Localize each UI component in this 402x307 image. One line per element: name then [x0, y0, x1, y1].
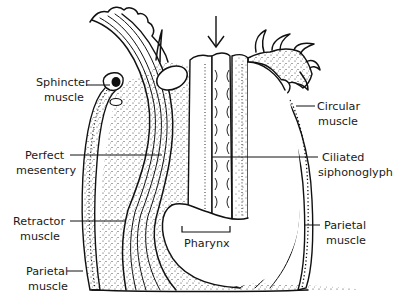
pedal-disc: [92, 290, 308, 292]
label-parietal-muscle-right: Parietal muscle: [324, 219, 366, 247]
svg-text:muscle: muscle: [20, 230, 60, 243]
svg-text:mesentery: mesentery: [16, 164, 76, 177]
svg-text:Parietal: Parietal: [324, 219, 366, 232]
label-pharynx: Pharynx: [184, 237, 230, 250]
pharynx: [188, 53, 248, 222]
svg-text:Perfect: Perfect: [25, 149, 65, 162]
anemone-section-diagram: Sphincter muscle Perfect mesentery Retra…: [0, 0, 402, 307]
label-circular-muscle: Circular muscle: [317, 100, 360, 128]
svg-text:Ciliated: Ciliated: [322, 151, 364, 164]
svg-text:Retractor: Retractor: [13, 215, 65, 228]
svg-text:muscle: muscle: [318, 115, 358, 128]
label-parietal-muscle-left: Parietal muscle: [26, 265, 68, 293]
label-retractor-muscle: Retractor muscle: [13, 215, 65, 243]
svg-text:muscle: muscle: [28, 280, 68, 293]
water-flow-arrow-icon: [208, 16, 224, 47]
label-ciliated-siphonoglyph: Ciliated siphonoglyph: [318, 151, 393, 179]
svg-text:Parietal: Parietal: [26, 265, 68, 278]
svg-text:Sphincter: Sphincter: [36, 76, 90, 89]
svg-text:muscle: muscle: [326, 234, 366, 247]
svg-text:siphonoglyph: siphonoglyph: [318, 166, 393, 179]
label-sphincter-muscle: Sphincter muscle: [36, 76, 90, 104]
label-perfect-mesentery: Perfect mesentery: [16, 149, 76, 177]
svg-text:muscle: muscle: [44, 91, 84, 104]
svg-text:Circular: Circular: [317, 100, 360, 113]
